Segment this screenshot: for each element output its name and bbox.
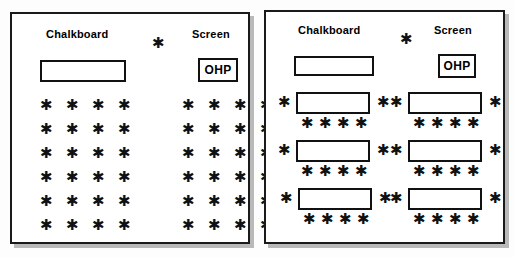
right-table-t3-seat-left [278,145,289,156]
left-seat-r3-c5 [182,148,193,159]
right-table-t6-seat-below-2 [431,214,442,225]
left-seat-r5-c1 [40,196,51,207]
left-seat-r1-c3 [92,100,103,111]
right-table-t5-seat-below-3 [339,214,350,225]
right-table-t6-seat-left [390,193,401,204]
left-seat-r2-c5 [182,124,193,135]
left-seat-r5-c2 [66,196,77,207]
left-seat-r5-c6 [208,196,219,207]
right-table-t1-seat-below-1 [301,118,312,129]
left-ohp-label: OHP [205,63,232,77]
right-table-t6 [408,188,482,210]
right-table-t1-seat-below-4 [355,118,366,129]
figure-canvas: Chalkboard Screen OHP Chalkboard Screen … [0,0,514,257]
left-seat-r2-c6 [208,124,219,135]
right-chalkboard-rect [294,56,374,76]
left-seat-r2-c7 [234,124,245,135]
left-seat-r4-c3 [92,172,103,183]
left-seat-r3-c6 [208,148,219,159]
right-table-t2-seat-below-3 [449,118,460,129]
left-seat-r1-c2 [66,100,77,111]
left-center-seat-icon [152,38,163,49]
left-seat-r6-c1 [40,220,51,231]
left-seat-r1-c4 [118,100,129,111]
left-screen-label: Screen [192,28,230,40]
right-table-t6-seat-below-3 [449,214,460,225]
left-seat-r5-c5 [182,196,193,207]
left-chalkboard-rect [40,60,126,82]
right-table-t4-seat-right [489,145,500,156]
right-table-t2-seat-below-2 [431,118,442,129]
right-screen-label: Screen [434,24,472,36]
left-seat-r1-c7 [234,100,245,111]
right-ohp-box: OHP [438,54,476,78]
left-seat-r2-c2 [66,124,77,135]
right-table-t1-seat-left [278,97,289,108]
right-table-t6-seat-right [489,193,500,204]
left-seat-r2-c4 [118,124,129,135]
left-seat-r4-c6 [208,172,219,183]
right-table-t5-seat-below-2 [321,214,332,225]
right-table-t2-seat-left [390,97,401,108]
left-ohp-box: OHP [198,58,238,82]
right-table-t4-seat-below-1 [413,166,424,177]
right-table-t4-seat-below-3 [449,166,460,177]
right-center-seat-icon [400,34,411,45]
left-seat-r6-c5 [182,220,193,231]
right-table-t3-seat-right [377,145,388,156]
left-seat-r6-c3 [92,220,103,231]
left-seat-r6-c2 [66,220,77,231]
left-seat-r6-c6 [208,220,219,231]
right-table-t2-seat-below-1 [413,118,424,129]
right-table-t5-seat-right [379,193,390,204]
right-ohp-label: OHP [444,59,471,73]
right-table-t1-seat-right [377,97,388,108]
left-seat-r4-c4 [118,172,129,183]
left-seat-r5-c4 [118,196,129,207]
right-chalkboard-label: Chalkboard [298,24,361,36]
left-seat-r4-c5 [182,172,193,183]
right-table-t2-seat-below-4 [467,118,478,129]
right-table-t2-seat-right [489,97,500,108]
right-table-t1 [296,92,370,114]
left-seat-r4-c2 [66,172,77,183]
right-table-t5-seat-below-1 [303,214,314,225]
left-seat-r3-c2 [66,148,77,159]
right-classroom-panel: Chalkboard Screen OHP [264,10,505,244]
left-seat-r2-c1 [40,124,51,135]
right-table-t3-seat-below-4 [355,166,366,177]
right-table-t3-seat-below-1 [301,166,312,177]
right-table-t4 [408,140,482,162]
right-table-t4-seat-left [390,145,401,156]
left-seat-r4-c1 [40,172,51,183]
left-seat-r5-c3 [92,196,103,207]
left-chalkboard-label: Chalkboard [46,28,109,40]
right-table-t1-seat-below-3 [337,118,348,129]
left-seat-r3-c3 [92,148,103,159]
right-table-t3 [296,140,370,162]
left-seat-r4-c7 [234,172,245,183]
right-table-t5 [298,188,372,210]
left-seat-r1-c5 [182,100,193,111]
left-seat-r1-c1 [40,100,51,111]
left-seat-r6-c4 [118,220,129,231]
right-table-t2 [408,92,482,114]
right-table-t1-seat-below-2 [319,118,330,129]
left-classroom-panel: Chalkboard Screen OHP [10,12,250,244]
right-table-t3-seat-below-3 [337,166,348,177]
left-seat-r3-c7 [234,148,245,159]
right-table-t5-seat-below-4 [357,214,368,225]
left-seat-r2-c3 [92,124,103,135]
left-seat-r5-c7 [234,196,245,207]
left-seat-r3-c4 [118,148,129,159]
right-table-t5-seat-left [280,193,291,204]
left-seat-r3-c1 [40,148,51,159]
right-table-t3-seat-below-2 [319,166,330,177]
right-table-t4-seat-below-2 [431,166,442,177]
right-table-t6-seat-below-4 [467,214,478,225]
right-table-t6-seat-below-1 [413,214,424,225]
right-table-t4-seat-below-4 [467,166,478,177]
left-seat-r6-c7 [234,220,245,231]
left-seat-r1-c6 [208,100,219,111]
